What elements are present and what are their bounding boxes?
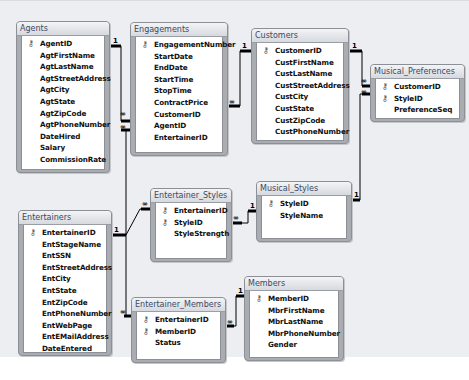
field-row[interactable]: PreferenceSeq	[376, 104, 459, 116]
field-row[interactable]: MbrLastName	[250, 316, 338, 328]
field-row[interactable]: StartDate	[136, 51, 222, 63]
field-row[interactable]: AgtPhoneNumber	[22, 119, 104, 131]
field-name: EntState	[42, 286, 76, 295]
field-row[interactable]: EndDate	[136, 62, 222, 74]
field-row[interactable]: DateHired	[22, 131, 104, 143]
relationship-line[interactable]	[360, 94, 370, 200]
field-row[interactable]: AgtCity	[22, 84, 104, 96]
field-row[interactable]: ⚷CustomerID	[376, 81, 459, 93]
field-row[interactable]: MbrFirstName	[250, 305, 338, 317]
field-row[interactable]: ⚷StyleID	[376, 93, 459, 105]
table-agents[interactable]: Agents⚷AgentIDAgtFirstNameAgtLastNameAgt…	[16, 21, 110, 173]
field-row[interactable]: EntStreetAddress	[24, 262, 106, 274]
relationships-canvas: Agents⚷AgentIDAgtFirstNameAgtLastNameAgt…	[0, 0, 469, 357]
field-row[interactable]: AgtZipCode	[22, 108, 104, 120]
field-list: ⚷AgentIDAgtFirstNameAgtLastNameAgtStreet…	[21, 36, 105, 170]
field-row[interactable]: ⚷EntertainerID	[156, 205, 226, 217]
field-row[interactable]: CustState	[257, 103, 343, 115]
field-row[interactable]: AgentID	[136, 120, 222, 132]
table-engagements[interactable]: Engagements⚷EngagementNumberStartDateEnd…	[130, 22, 228, 156]
field-row[interactable]: AgtLastName	[22, 61, 104, 73]
field-row[interactable]: ⚷EngagementNumber	[136, 39, 222, 51]
field-row[interactable]: EntSSN	[24, 250, 106, 262]
field-name: CustomerID	[394, 82, 441, 91]
field-name: AgtStreetAddress	[40, 74, 111, 83]
table-title[interactable]: Musical_Styles	[257, 182, 351, 196]
field-row[interactable]: StartTime	[136, 74, 222, 86]
key-icon: ⚷	[263, 45, 269, 57]
table-title[interactable]: Entertainer_Members	[132, 298, 225, 312]
table-musical-styles[interactable]: Musical_Styles⚷StyleIDStyleName	[256, 181, 352, 242]
field-name: DateHired	[40, 132, 80, 141]
field-row[interactable]: ⚷MemberID	[250, 293, 338, 305]
field-row[interactable]: AgtFirstName	[22, 50, 104, 62]
table-entertainers[interactable]: Entertainers⚷EntertainerIDEntStageNameEn…	[18, 210, 112, 356]
field-row[interactable]: DateEntered	[24, 343, 106, 355]
field-row[interactable]: CustCity	[257, 91, 343, 103]
cardinality-many-label: ∞	[227, 319, 233, 326]
field-row[interactable]: EntertainerID	[136, 132, 222, 144]
key-icon: ⚷	[143, 314, 149, 326]
field-row[interactable]: CustZipCode	[257, 115, 343, 127]
relationship-line[interactable]	[126, 209, 150, 235]
table-title[interactable]: Engagements	[131, 23, 227, 37]
field-name: EntertainerID	[154, 133, 208, 142]
field-name: EntWebPage	[42, 321, 92, 330]
field-row[interactable]: StyleName	[262, 210, 346, 222]
cardinality-many-label: ∞	[233, 215, 239, 222]
field-name: CustState	[275, 104, 314, 113]
table-title[interactable]: Entertainers	[19, 211, 111, 225]
key-icon: ⚷	[162, 217, 168, 229]
field-row[interactable]: Gender	[250, 339, 338, 351]
field-row[interactable]: CustLastName	[257, 68, 343, 80]
field-row[interactable]: EntZipCode	[24, 297, 106, 309]
field-list: ⚷EntertainerID⚷MemberIDStatus	[136, 312, 221, 360]
cardinality-one-label: 1	[250, 203, 255, 210]
field-name: AgtPhoneNumber	[40, 120, 110, 129]
field-row[interactable]: CustomerID	[136, 109, 222, 121]
field-row[interactable]: CommissionRate	[22, 154, 104, 166]
cardinality-many-label: ∞	[142, 201, 148, 208]
field-row[interactable]: Status	[137, 337, 220, 349]
field-row[interactable]: AgtState	[22, 96, 104, 108]
field-name: StyleID	[394, 94, 423, 103]
field-row[interactable]: AgtStreetAddress	[22, 73, 104, 85]
table-title[interactable]: Agents	[17, 22, 109, 36]
field-row[interactable]: ⚷StyleID	[156, 217, 226, 229]
field-name: MbrPhoneNumber	[268, 329, 340, 338]
table-title[interactable]: Members	[245, 277, 343, 291]
field-row[interactable]: ⚷MemberID	[137, 326, 220, 338]
field-row[interactable]: CustFirstName	[257, 57, 343, 69]
field-row[interactable]: ⚷AgentID	[22, 38, 104, 50]
field-name: MemberID	[155, 327, 196, 336]
table-title[interactable]: Customers	[252, 29, 348, 43]
field-row[interactable]: EntStageName	[24, 239, 106, 251]
field-row[interactable]: ContractPrice	[136, 97, 222, 109]
field-row[interactable]: EntEMailAddress	[24, 331, 106, 343]
field-list: ⚷EntertainerID⚷StyleIDStyleStrength	[155, 203, 227, 259]
field-row[interactable]: Salary	[22, 142, 104, 154]
field-row[interactable]: MbrPhoneNumber	[250, 328, 338, 340]
field-name: AgtFirstName	[40, 51, 95, 60]
field-row[interactable]: EntPhoneNumber	[24, 308, 106, 320]
field-row[interactable]: EntWebPage	[24, 320, 106, 332]
field-row[interactable]: StyleStrength	[156, 228, 226, 240]
field-name: EndDate	[154, 63, 188, 72]
field-row[interactable]: ⚷EntertainerID	[137, 314, 220, 326]
table-entertainer-members[interactable]: Entertainer_Members⚷EntertainerID⚷Member…	[131, 297, 226, 363]
table-entertainer-styles[interactable]: Entertainer_Styles⚷EntertainerID⚷StyleID…	[150, 188, 232, 262]
table-customers[interactable]: Customers⚷CustomerIDCustFirstNameCustLas…	[251, 28, 349, 144]
field-row[interactable]: EntCity	[24, 273, 106, 285]
table-musical-preferences[interactable]: Musical_Preferences⚷CustomerID⚷StyleIDPr…	[370, 64, 465, 122]
field-row[interactable]: EntState	[24, 285, 106, 297]
table-title[interactable]: Musical_Preferences	[371, 65, 464, 79]
field-row[interactable]: ⚷CustomerID	[257, 45, 343, 57]
field-row[interactable]: StopTime	[136, 85, 222, 97]
field-row[interactable]: ⚷StyleID	[262, 198, 346, 210]
field-row[interactable]: CustPhoneNumber	[257, 126, 343, 138]
table-title[interactable]: Entertainer_Styles	[151, 189, 231, 203]
field-row[interactable]: CustStreetAddress	[257, 80, 343, 92]
table-members[interactable]: Members⚷MemberIDMbrFirstNameMbrLastNameM…	[244, 276, 344, 361]
field-row[interactable]: ⚷EntertainerID	[24, 227, 106, 239]
field-name: AgentID	[154, 121, 186, 130]
